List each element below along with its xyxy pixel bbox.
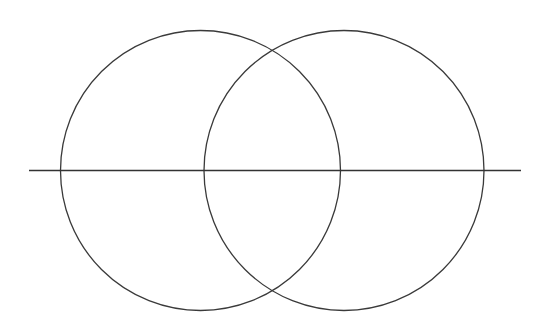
canvas-background (0, 0, 538, 333)
figure-canvas: Two Intersecting Circles with Horizontal… (0, 0, 538, 333)
diagram-svg: Two Intersecting Circles with Horizontal… (0, 0, 538, 333)
